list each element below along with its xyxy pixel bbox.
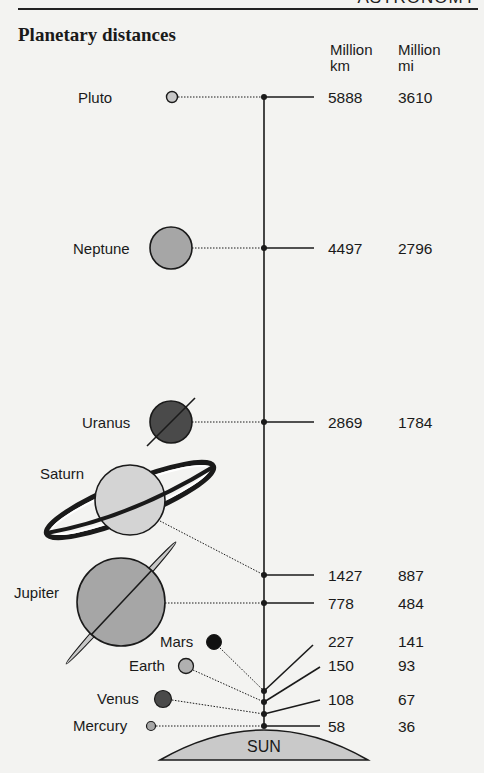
earth-tick	[264, 667, 320, 702]
pluto-icon	[167, 92, 178, 103]
planet-row-uranus: Uranus 2869 1784	[82, 398, 433, 446]
mars-tick	[264, 645, 313, 691]
venus-connector	[172, 700, 264, 714]
jupiter-km: 778	[328, 595, 354, 612]
saturn-mi: 887	[398, 567, 424, 584]
planet-label-saturn: Saturn	[40, 465, 84, 482]
jupiter-mi: 484	[398, 595, 424, 612]
pluto-km: 5888	[328, 89, 362, 106]
planet-row-saturn: Saturn 1427 887	[40, 450, 424, 584]
saturn-km: 1427	[328, 567, 362, 584]
planet-label-pluto: Pluto	[78, 89, 112, 106]
mars-connector	[220, 648, 264, 691]
mercury-mi: 36	[398, 718, 415, 735]
planet-label-venus: Venus	[97, 690, 139, 707]
earth-connector	[193, 670, 264, 702]
sun-label: SUN	[247, 738, 281, 755]
venus-km: 108	[328, 691, 354, 708]
neptune-km: 4497	[328, 240, 362, 257]
planet-row-pluto: Pluto 5888 3610	[78, 89, 433, 106]
mercury-km: 58	[328, 718, 345, 735]
mercury-icon	[147, 722, 156, 731]
pluto-mi: 3610	[398, 89, 433, 106]
saturn-connector	[160, 521, 264, 575]
mars-km: 227	[328, 633, 354, 650]
mars-icon	[207, 635, 222, 650]
neptune-mi: 2796	[398, 240, 432, 257]
mars-mi: 141	[398, 633, 424, 650]
venus-tick	[264, 700, 320, 714]
planet-label-mercury: Mercury	[73, 717, 128, 734]
planet-label-neptune: Neptune	[73, 240, 130, 257]
planet-row-venus: Venus 108 67	[97, 690, 415, 717]
planet-label-jupiter: Jupiter	[14, 584, 59, 601]
planet-label-uranus: Uranus	[82, 414, 130, 431]
planet-label-earth: Earth	[129, 657, 165, 674]
venus-icon	[155, 691, 172, 708]
planet-label-mars: Mars	[160, 633, 193, 650]
planet-row-neptune: Neptune 4497 2796	[73, 227, 432, 269]
uranus-mi: 1784	[398, 414, 433, 431]
neptune-icon	[150, 227, 192, 269]
earth-km: 150	[328, 657, 354, 674]
venus-mi: 67	[398, 691, 415, 708]
planetary-distance-diagram: SUN Pluto 5888 3610 Neptune 4497 2796 Ur…	[0, 0, 484, 773]
earth-mi: 93	[398, 657, 415, 674]
uranus-km: 2869	[328, 414, 362, 431]
earth-icon	[179, 659, 194, 674]
